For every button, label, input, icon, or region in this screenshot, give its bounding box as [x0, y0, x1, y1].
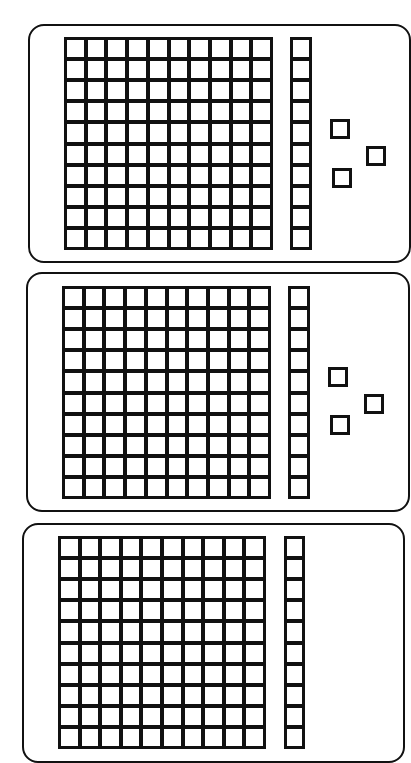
rod-cell: [291, 289, 307, 306]
flat-cell: [108, 146, 125, 163]
rod-cell: [291, 395, 307, 412]
flat-cell: [108, 124, 125, 141]
flat-cell: [253, 167, 270, 184]
flat-cell: [205, 645, 222, 662]
flat-cell: [233, 40, 250, 57]
flat-cell: [205, 539, 222, 556]
flat-cell: [82, 666, 99, 683]
flat-cell: [253, 230, 270, 247]
flat-cell: [205, 623, 222, 640]
flat-cell: [143, 623, 160, 640]
hundred-flat: [62, 286, 271, 499]
flat-cell: [143, 729, 160, 746]
flat-cell: [61, 666, 78, 683]
flat-cell: [169, 458, 186, 475]
flat-cell: [129, 230, 146, 247]
flat-cell: [210, 310, 227, 327]
flat-cell: [150, 40, 167, 57]
unit-cube: [364, 394, 384, 414]
flat-cell: [185, 623, 202, 640]
flat-cell: [88, 146, 105, 163]
flat-cell: [67, 230, 84, 247]
flat-cell: [189, 437, 206, 454]
flat-cell: [150, 230, 167, 247]
flat-cell: [189, 310, 206, 327]
flat-cell: [212, 209, 229, 226]
flat-cell: [61, 687, 78, 704]
rod-cell: [291, 310, 307, 327]
flat-cell: [226, 602, 243, 619]
rod-cell: [291, 373, 307, 390]
flat-cell: [67, 209, 84, 226]
flat-cell: [143, 666, 160, 683]
flat-cell: [106, 352, 123, 369]
flat-cell: [150, 146, 167, 163]
flat-cell: [251, 395, 268, 412]
flat-cell: [150, 61, 167, 78]
flat-cell: [210, 331, 227, 348]
flat-cell: [189, 331, 206, 348]
flat-cell: [246, 560, 263, 577]
flat-cell: [171, 61, 188, 78]
flat-cell: [191, 82, 208, 99]
flat-cell: [82, 560, 99, 577]
flat-cell: [205, 729, 222, 746]
flat-cell: [210, 479, 227, 496]
flat-cell: [212, 82, 229, 99]
flat-cell: [171, 230, 188, 247]
flat-cell: [231, 479, 248, 496]
flat-cell: [61, 602, 78, 619]
flat-cell: [106, 310, 123, 327]
hundred-flat: [58, 536, 266, 749]
flat-cell: [185, 666, 202, 683]
flat-cell: [150, 188, 167, 205]
rod-cell: [287, 729, 302, 746]
flat-cell: [88, 103, 105, 120]
flat-cell: [127, 479, 144, 496]
flat-cell: [233, 209, 250, 226]
flat-cell: [246, 729, 263, 746]
flat-cell: [102, 602, 119, 619]
flat-cell: [65, 310, 82, 327]
flat-cell: [123, 602, 140, 619]
flat-cell: [86, 479, 103, 496]
flat-cell: [108, 188, 125, 205]
flat-cell: [171, 209, 188, 226]
flat-cell: [129, 146, 146, 163]
flat-cell: [164, 581, 181, 598]
flat-cell: [102, 560, 119, 577]
flat-cell: [169, 416, 186, 433]
flat-cell: [171, 82, 188, 99]
flat-cell: [231, 289, 248, 306]
flat-cell: [210, 395, 227, 412]
flat-cell: [67, 124, 84, 141]
flat-cell: [171, 103, 188, 120]
flat-cell: [102, 539, 119, 556]
flat-cell: [164, 645, 181, 662]
rod-cell: [287, 602, 302, 619]
rod-cell: [293, 209, 309, 226]
flat-cell: [210, 289, 227, 306]
ten-rod: [288, 286, 310, 499]
flat-cell: [143, 602, 160, 619]
flat-cell: [86, 395, 103, 412]
flat-cell: [123, 666, 140, 683]
flat-cell: [129, 82, 146, 99]
flat-cell: [251, 289, 268, 306]
flat-cell: [143, 708, 160, 725]
flat-cell: [65, 458, 82, 475]
flat-cell: [246, 602, 263, 619]
flat-cell: [191, 40, 208, 57]
flat-cell: [61, 560, 78, 577]
flat-cell: [231, 373, 248, 390]
flat-cell: [233, 103, 250, 120]
flat-cell: [210, 437, 227, 454]
flat-cell: [148, 437, 165, 454]
unit-cube: [330, 415, 350, 435]
flat-cell: [127, 352, 144, 369]
flat-cell: [205, 687, 222, 704]
flat-cell: [143, 539, 160, 556]
flat-cell: [171, 40, 188, 57]
flat-cell: [148, 352, 165, 369]
flat-cell: [210, 352, 227, 369]
